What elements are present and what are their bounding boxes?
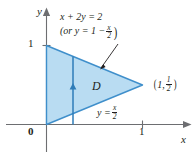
y-axis-tick-label-one: 1 [28,38,34,49]
lower-line-equation: y = x 2 [97,104,118,120]
point-y-fraction: 1 2 [166,76,172,92]
equation-standard-text: x + 2y = 2 [60,11,102,24]
lower-line-fraction: x 2 [112,104,118,120]
equation-line-alternate: (or y = 1 − x 2 ) [60,24,118,40]
equation-alt-close-paren: ) [114,26,118,38]
lower-line-fraction-numerator: x [112,104,117,112]
equation-alt-fraction-numerator: x [106,24,111,32]
point-y-fraction-numerator: 1 [166,76,172,84]
leader-line [101,44,118,68]
point-close-paren: ) [173,79,176,89]
x-axis-tick-label-one: 1 [139,126,145,137]
point-open-paren: ( [154,79,157,89]
lower-line-prefix: y = [97,107,111,118]
vertex-point-label: ( 1, 1 2 ) [153,76,177,92]
region-label-d: D [92,80,101,92]
y-axis-arrowhead [43,8,50,17]
point-y-fraction-denominator: 2 [166,84,172,93]
y-axis-label: y [37,6,42,17]
point-x-value: 1, [157,79,165,90]
x-axis-arrowhead [183,121,192,128]
x-axis-label: x [181,134,186,145]
equation-alt-prefix: (or y = 1 − [60,25,105,38]
equation-alt-fraction: x 2 [106,24,112,40]
origin-label: 0 [28,126,34,137]
upper-line-equation-block: x + 2y = 2 (or y = 1 − x 2 ) [60,11,118,40]
lower-line-fraction-denominator: 2 [112,112,118,121]
equation-alt-fraction-denominator: 2 [106,31,112,40]
equation-line-standard: x + 2y = 2 [60,11,118,24]
